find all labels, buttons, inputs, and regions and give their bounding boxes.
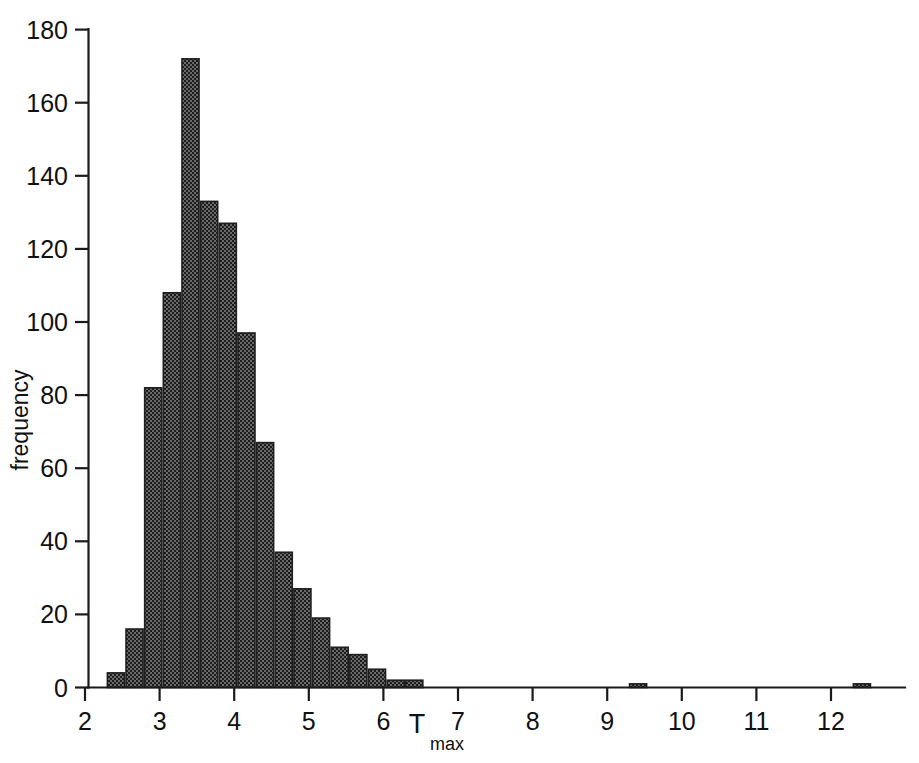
- x-axis-label-text: T: [409, 709, 426, 739]
- x-tick-label: 6: [376, 707, 390, 735]
- x-tick-label: 4: [227, 707, 241, 735]
- y-tick-label: 60: [40, 454, 68, 482]
- histogram-bar: [275, 552, 292, 687]
- x-ticks-group: 23456789101112: [78, 688, 845, 736]
- x-tick-label: 2: [78, 707, 92, 735]
- x-tick-label: 9: [600, 707, 614, 735]
- histogram-bar: [331, 647, 348, 687]
- histogram-bar: [294, 589, 311, 688]
- histogram-bar: [145, 388, 162, 688]
- y-tick-label: 160: [26, 89, 68, 117]
- x-axis-label-subscript: max: [430, 734, 464, 754]
- x-tick-label: 10: [668, 707, 696, 735]
- x-tick-label: 11: [743, 707, 769, 735]
- y-tick-label: 80: [40, 381, 68, 409]
- x-tick-label: 7: [451, 707, 465, 735]
- y-axis-label: frequency: [7, 369, 33, 471]
- histogram-bar: [257, 443, 274, 688]
- y-tick-label: 120: [26, 235, 68, 263]
- y-tick-label: 100: [26, 308, 68, 336]
- histogram-bar: [182, 59, 199, 688]
- histogram-bar: [219, 223, 236, 687]
- histogram-plot-svg: 020406080100120140160180 23456789101112 …: [0, 0, 919, 763]
- histogram-bar: [107, 673, 124, 688]
- histogram-bar: [126, 629, 143, 687]
- histogram-bar: [201, 201, 218, 687]
- x-tick-label: 12: [817, 707, 845, 735]
- histogram-bar: [238, 333, 255, 688]
- bars-group: [107, 59, 870, 688]
- y-tick-label: 140: [26, 162, 68, 190]
- y-tick-label: 180: [26, 16, 68, 44]
- y-tick-label: 0: [54, 674, 68, 702]
- histogram-bar: [163, 293, 180, 688]
- x-tick-label: 3: [153, 707, 167, 735]
- y-axis-label-text: frequency: [7, 369, 33, 471]
- y-tick-label: 20: [40, 600, 68, 628]
- y-ticks-group: 020406080100120140160180: [26, 16, 88, 702]
- histogram-bar: [368, 669, 385, 687]
- histogram-figure: 020406080100120140160180 23456789101112 …: [0, 0, 919, 763]
- histogram-bar: [313, 618, 330, 687]
- y-tick-label: 40: [40, 527, 68, 555]
- x-tick-label: 8: [526, 707, 540, 735]
- histogram-bar: [350, 655, 367, 688]
- x-tick-label: 5: [302, 707, 316, 735]
